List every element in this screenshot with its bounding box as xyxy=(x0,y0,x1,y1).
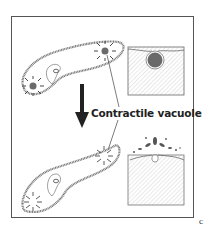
transition-arrow xyxy=(75,84,89,128)
contractile-vacuole-label: Contractile vacuole xyxy=(91,107,202,119)
paramecium-bottom xyxy=(22,145,119,212)
paramecium-diagram xyxy=(0,0,206,246)
inset-filled xyxy=(128,47,184,95)
paramecium-top xyxy=(22,41,124,96)
water-droplets xyxy=(133,137,181,153)
panel-letter: c xyxy=(199,216,203,226)
inset-expelled xyxy=(128,137,184,205)
